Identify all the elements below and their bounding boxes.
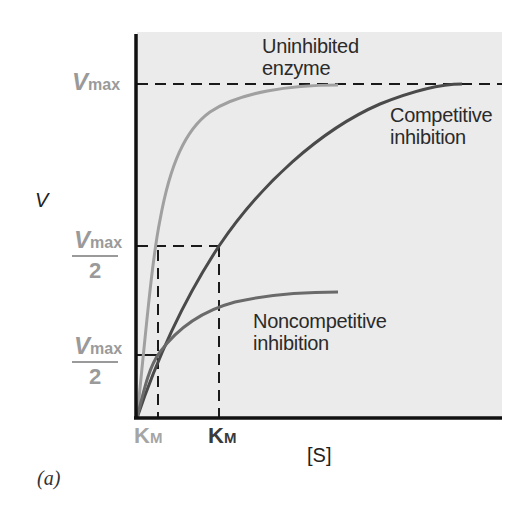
noncompetitive-label-line2: inhibition bbox=[253, 332, 387, 354]
vmax-half-upper-den: 2 bbox=[72, 257, 118, 284]
noncompetitive-label: Noncompetitive inhibition bbox=[253, 310, 387, 354]
vmax-tick-label: Vmax bbox=[72, 70, 120, 94]
vmax-half-upper-v: V bbox=[74, 226, 90, 253]
km-uninhibited-sub: M bbox=[150, 429, 163, 446]
uninhibited-label-line1: Uninhibited bbox=[262, 35, 359, 57]
km-uninhibited-label: KM bbox=[134, 425, 162, 447]
vmax-half-lower-den: 2 bbox=[72, 363, 118, 390]
noncompetitive-label-line1: Noncompetitive bbox=[253, 310, 387, 332]
vmax-tick-sub: max bbox=[88, 76, 120, 93]
figure-caption: (a) bbox=[37, 468, 60, 488]
uninhibited-label: Uninhibited enzyme bbox=[262, 35, 359, 79]
vmax-half-lower-sub: max bbox=[90, 340, 122, 357]
vmax-half-lower-v: V bbox=[74, 332, 90, 359]
x-axis-label: [S] bbox=[307, 445, 331, 465]
y-axis-label: V bbox=[35, 190, 48, 210]
competitive-label-line1: Competitive bbox=[390, 104, 492, 126]
plot-panel bbox=[137, 32, 502, 417]
competitive-label-line2: inhibition bbox=[390, 126, 492, 148]
uninhibited-label-line2: enzyme bbox=[262, 57, 359, 79]
vmax-half-upper-sub: max bbox=[90, 234, 122, 251]
km-competitive-label: KM bbox=[208, 425, 236, 447]
vmax-tick-main: V bbox=[72, 68, 88, 95]
competitive-label: Competitive inhibition bbox=[390, 104, 492, 148]
km-competitive-sub: M bbox=[224, 429, 237, 446]
km-uninhibited-main: K bbox=[134, 423, 150, 448]
vmax-half-lower-label: Vmax 2 bbox=[72, 332, 118, 390]
km-competitive-main: K bbox=[208, 423, 224, 448]
vmax-half-upper-label: Vmax 2 bbox=[72, 226, 118, 284]
vmax-half-upper-num: Vmax bbox=[72, 226, 118, 257]
vmax-half-lower-num: Vmax bbox=[72, 332, 118, 363]
